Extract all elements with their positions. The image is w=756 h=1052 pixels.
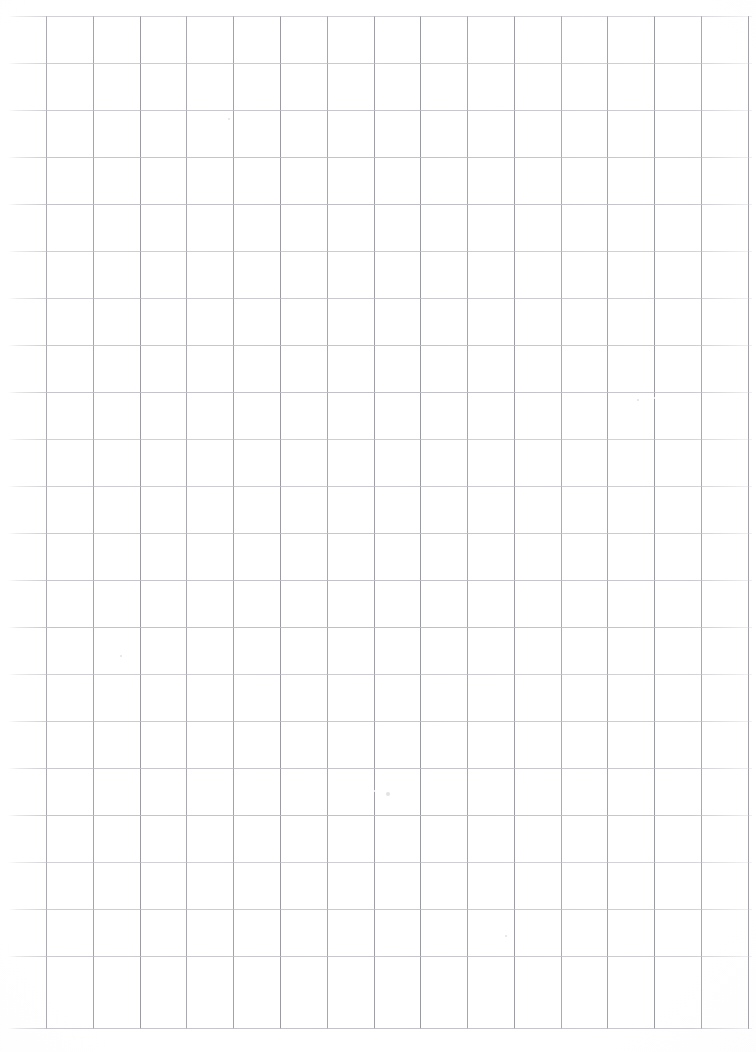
paper-tone-overlay [0, 0, 756, 1052]
grid-vline [467, 16, 468, 1029]
grid-vline [46, 16, 47, 1029]
scan-artifacts [0, 0, 756, 1052]
grid-hline [8, 157, 752, 158]
paper-speck [637, 399, 639, 401]
paper-speck [228, 118, 230, 120]
vertical-grid-lines [0, 0, 756, 1052]
grid-hline [8, 204, 752, 205]
grid-vline [420, 16, 421, 1029]
grid-hline [8, 298, 752, 299]
grid-hline [8, 580, 752, 581]
grid-vline [561, 16, 562, 1029]
paper-speck [120, 655, 122, 657]
grid-vline [374, 16, 375, 1029]
grid-vline [327, 16, 328, 1029]
grid-hline [8, 674, 752, 675]
paper-speck [505, 935, 507, 937]
grid-paper-sheet [0, 0, 756, 1052]
grid-vline [93, 16, 94, 1029]
grid-hline [8, 16, 752, 17]
grid-hline [8, 251, 752, 252]
grid-hline [8, 110, 752, 111]
grid-hline [8, 956, 752, 957]
grid-hline [8, 63, 752, 64]
grid-hline [8, 815, 752, 816]
grid-line-gap [352, 790, 388, 792]
grid-hline [8, 486, 752, 487]
grid-hline [8, 345, 752, 346]
grid-hline [8, 1028, 752, 1029]
grid-hline [8, 439, 752, 440]
grid-vline [654, 16, 655, 1029]
horizontal-grid-lines [0, 0, 756, 1052]
grid-vline [280, 16, 281, 1029]
grid-vline [233, 16, 234, 1029]
grid-hline [8, 533, 752, 534]
grid-vline [514, 16, 515, 1029]
grid-hline [8, 768, 752, 769]
grid-vline [140, 16, 141, 1029]
paper-speck [386, 792, 390, 796]
grid-line-gap [612, 397, 656, 399]
grid-hline [8, 392, 752, 393]
grid-hline [8, 627, 752, 628]
grid-hline [8, 909, 752, 910]
grid-vline [701, 16, 702, 1029]
grid-hline [8, 862, 752, 863]
grid-vline [748, 16, 749, 1029]
grid-vline [607, 16, 608, 1029]
grid-vline [186, 16, 187, 1029]
grid-hline [8, 721, 752, 722]
